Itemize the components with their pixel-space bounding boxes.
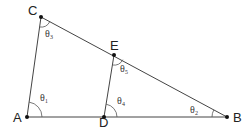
- angle-arc-theta3: [40, 22, 50, 27]
- triangle-diagram: A B C D E θ₁ θ₂ θ₃ θ₄ θ₅: [0, 0, 251, 128]
- segment-cb: [41, 17, 227, 117]
- point-a: [25, 115, 29, 119]
- point-e: [112, 53, 116, 57]
- label-e: E: [110, 38, 119, 53]
- angle-label-theta4: θ₄: [117, 95, 126, 106]
- label-a: A: [13, 110, 22, 125]
- angle-label-theta3: θ₃: [45, 28, 53, 39]
- label-b: B: [233, 110, 242, 125]
- point-b: [225, 115, 229, 119]
- angle-label-theta5: θ₅: [120, 63, 128, 74]
- segment-ac: [27, 17, 41, 117]
- angle-label-theta1: θ₁: [40, 92, 48, 103]
- label-d: D: [99, 115, 108, 128]
- label-c: C: [28, 3, 37, 18]
- angle-arc-theta2: [212, 110, 214, 117]
- point-c: [39, 15, 43, 19]
- angle-label-theta2: θ₂: [190, 104, 198, 115]
- angle-arc-theta1: [29, 102, 42, 117]
